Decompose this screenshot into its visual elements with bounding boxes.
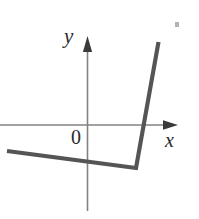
x-axis-label: x — [165, 130, 174, 150]
graph-figure: y x 0 — [0, 0, 199, 219]
origin-label: 0 — [71, 127, 81, 147]
y-axis-arrowhead — [83, 36, 92, 52]
y-axis-label: y — [64, 26, 73, 47]
scan-speck — [175, 22, 179, 27]
graph-curve — [7, 42, 159, 168]
graph-canvas — [0, 0, 199, 219]
